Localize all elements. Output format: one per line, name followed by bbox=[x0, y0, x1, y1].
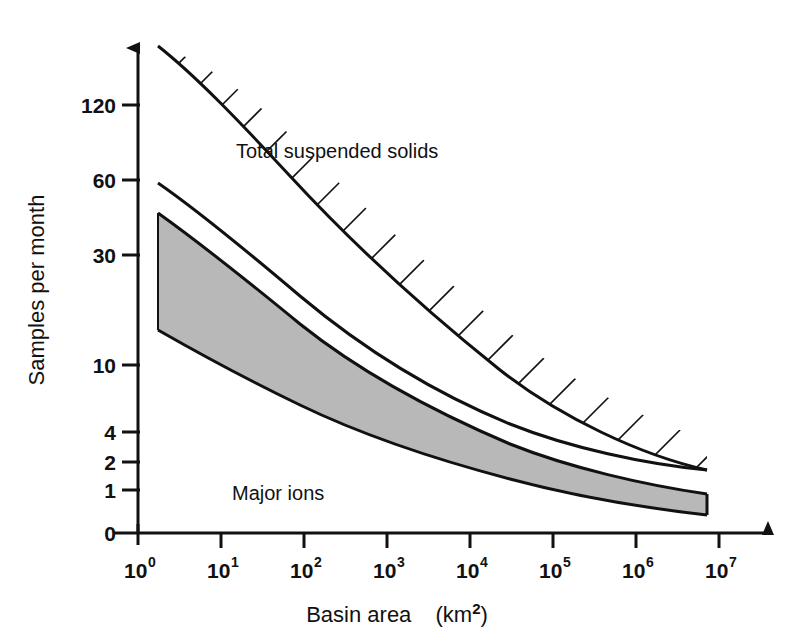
svg-text:4: 4 bbox=[480, 554, 488, 570]
svg-text:10: 10 bbox=[705, 559, 728, 582]
y-tick-label-0: 0 bbox=[104, 522, 116, 545]
svg-text:10: 10 bbox=[622, 559, 645, 582]
chart-svg: 120 60 30 10 4 2 1 0 10 0 bbox=[0, 0, 794, 644]
y-tick-label-120: 120 bbox=[81, 94, 116, 117]
x-axis-title-units-close: ) bbox=[480, 602, 487, 627]
y-axis-title: Samples per month bbox=[24, 195, 49, 386]
svg-text:7: 7 bbox=[729, 554, 737, 570]
plot-background bbox=[0, 0, 794, 644]
x-axis-title-units-base: (km bbox=[435, 602, 472, 627]
x-axis-title-units-exponent: 2 bbox=[472, 600, 480, 617]
annotation-total-suspended-solids: Total suspended solids bbox=[236, 140, 438, 162]
chart-figure: 120 60 30 10 4 2 1 0 10 0 bbox=[0, 0, 794, 644]
y-tick-label-2: 2 bbox=[104, 451, 116, 474]
svg-text:3: 3 bbox=[397, 554, 405, 570]
svg-text:10: 10 bbox=[539, 559, 562, 582]
svg-text:0: 0 bbox=[148, 554, 156, 570]
y-tick-label-30: 30 bbox=[93, 244, 116, 267]
svg-text:10: 10 bbox=[456, 559, 479, 582]
annotation-major-ions: Major ions bbox=[232, 482, 324, 504]
svg-text:10: 10 bbox=[207, 559, 230, 582]
svg-text:1: 1 bbox=[231, 554, 239, 570]
svg-text:2: 2 bbox=[314, 554, 322, 570]
y-tick-label-10: 10 bbox=[93, 354, 116, 377]
svg-text:10: 10 bbox=[373, 559, 396, 582]
x-axis-title-text: Basin area bbox=[306, 602, 412, 627]
svg-text:10: 10 bbox=[124, 559, 147, 582]
y-tick-label-1: 1 bbox=[104, 479, 116, 502]
x-axis-title: Basin area (km2) bbox=[306, 600, 488, 627]
svg-text:10: 10 bbox=[290, 559, 313, 582]
svg-text:5: 5 bbox=[563, 554, 571, 570]
svg-text:6: 6 bbox=[646, 554, 654, 570]
y-tick-label-60: 60 bbox=[93, 169, 116, 192]
y-tick-label-4: 4 bbox=[104, 421, 116, 444]
